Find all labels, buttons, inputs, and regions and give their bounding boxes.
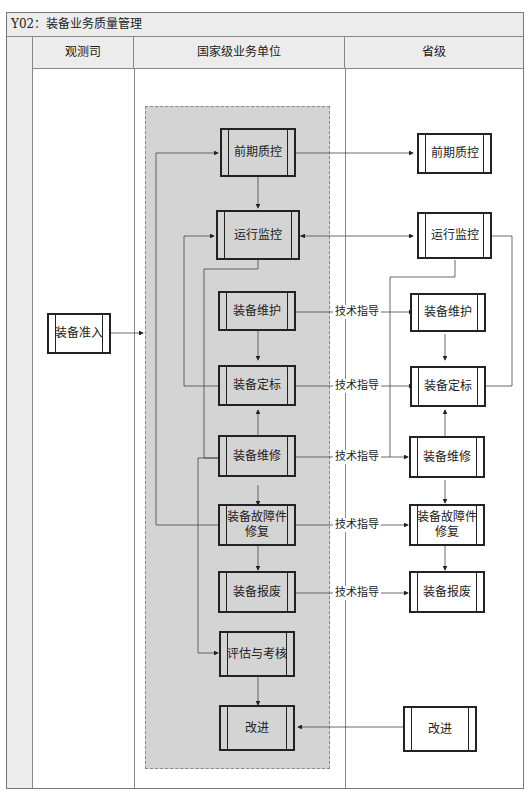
node-prov-fault-repair[interactable]: 装备故障件 修复: [409, 504, 485, 546]
node-label: 装备维修: [423, 450, 471, 465]
node-nat-evaluate[interactable]: 评估与考核: [219, 631, 295, 677]
node-label: 装备维护: [233, 304, 281, 319]
swimlane-diagram: Y02：装备业务质量管理 观测司 国家级业务单位 省级: [0, 0, 530, 797]
node-label: 前期质控: [234, 145, 282, 160]
node-label: 装备故障件: [417, 510, 477, 525]
node-obs-access[interactable]: 装备准入: [47, 313, 111, 354]
edge-label-tech-guidance: 技术指导: [333, 518, 381, 532]
node-prov-early-qc[interactable]: 前期质控: [417, 133, 492, 174]
node-label: 装备维护: [424, 305, 472, 320]
node-label: 装备准入: [55, 326, 103, 341]
node-label: 修复: [435, 525, 459, 540]
node-label: 装备故障件: [227, 510, 287, 525]
node-label: 运行监控: [431, 228, 479, 243]
edge-label-tech-guidance: 技术指导: [333, 305, 381, 319]
node-label: 装备报废: [233, 585, 281, 600]
node-nat-monitor[interactable]: 运行监控: [216, 210, 300, 260]
node-nat-improve[interactable]: 改进: [219, 705, 295, 751]
node-nat-calibrate[interactable]: 装备定标: [218, 365, 296, 406]
node-label: 装备定标: [233, 378, 281, 393]
node-nat-maintain[interactable]: 装备维护: [218, 291, 296, 331]
node-nat-repair[interactable]: 装备维修: [218, 435, 296, 477]
node-label: 改进: [428, 722, 452, 737]
node-prov-scrap[interactable]: 装备报废: [409, 571, 485, 613]
node-prov-maintain[interactable]: 装备维护: [410, 293, 486, 332]
edge-label-tech-guidance: 技术指导: [333, 450, 381, 464]
node-prov-monitor[interactable]: 运行监控: [417, 212, 492, 259]
node-nat-scrap[interactable]: 装备报废: [218, 571, 296, 613]
node-label: 评估与考核: [227, 647, 287, 662]
node-prov-calibrate[interactable]: 装备定标: [410, 366, 486, 407]
node-label: 装备报废: [423, 585, 471, 600]
node-label: 装备定标: [424, 379, 472, 394]
edge-label-tech-guidance: 技术指导: [333, 586, 381, 600]
node-prov-repair[interactable]: 装备维修: [409, 436, 485, 478]
node-nat-fault-repair[interactable]: 装备故障件 修复: [218, 504, 296, 546]
node-nat-early-qc[interactable]: 前期质控: [220, 128, 296, 177]
edge-label-tech-guidance: 技术指导: [333, 379, 381, 393]
node-label: 修复: [245, 525, 269, 540]
node-prov-improve[interactable]: 改进: [403, 706, 477, 752]
node-label: 改进: [245, 721, 269, 736]
node-label: 运行监控: [234, 228, 282, 243]
node-label: 装备维修: [233, 449, 281, 464]
node-label: 前期质控: [431, 146, 479, 161]
